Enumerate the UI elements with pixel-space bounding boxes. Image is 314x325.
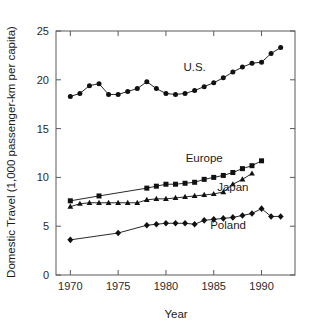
data-point-square bbox=[173, 182, 178, 187]
x-axis-title: Year bbox=[164, 308, 187, 320]
data-point-circle bbox=[221, 75, 226, 80]
x-tick-label: 1990 bbox=[249, 280, 273, 292]
x-tick-label: 1975 bbox=[106, 280, 130, 292]
travel-line-chart: 0510152025 19701975198019851990 U.S.Euro… bbox=[0, 0, 314, 325]
data-point-circle bbox=[116, 92, 121, 97]
data-point-square bbox=[97, 193, 102, 198]
data-point-circle bbox=[163, 91, 168, 96]
data-point-square bbox=[249, 163, 254, 168]
data-point-diamond bbox=[249, 210, 255, 217]
data-point-diamond bbox=[67, 237, 73, 244]
data-point-square bbox=[183, 181, 188, 186]
data-point-triangle bbox=[87, 200, 93, 205]
y-tick-label: 10 bbox=[37, 171, 49, 183]
data-point-square bbox=[144, 186, 149, 191]
x-axis-ticks: 19701975198019851990 bbox=[58, 31, 274, 292]
data-point-diamond bbox=[115, 230, 121, 237]
data-point-square bbox=[221, 173, 226, 178]
series-us bbox=[68, 45, 283, 99]
x-tick-label: 1970 bbox=[58, 280, 82, 292]
data-point-diamond bbox=[239, 212, 245, 219]
data-point-diamond bbox=[278, 213, 284, 220]
data-point-circle bbox=[278, 45, 283, 50]
series-polyline bbox=[70, 48, 280, 97]
data-point-circle bbox=[269, 51, 274, 56]
series-label-us: U.S. bbox=[183, 61, 205, 73]
data-point-circle bbox=[183, 91, 188, 96]
y-tick-label: 15 bbox=[37, 123, 49, 135]
data-point-square bbox=[230, 170, 235, 175]
series-label-europe: Europe bbox=[186, 152, 223, 164]
data-point-triangle bbox=[249, 170, 255, 175]
data-point-square bbox=[211, 175, 216, 180]
data-point-diamond bbox=[163, 220, 169, 227]
y-axis-ticks: 0510152025 bbox=[37, 25, 295, 281]
data-point-diamond bbox=[153, 221, 159, 228]
data-point-square bbox=[259, 158, 264, 163]
data-point-triangle bbox=[106, 200, 112, 205]
data-point-triangle bbox=[153, 196, 159, 201]
series-layer bbox=[67, 45, 283, 243]
data-point-circle bbox=[202, 84, 207, 89]
series-poland bbox=[67, 205, 283, 243]
data-point-diamond bbox=[182, 220, 188, 227]
data-point-square bbox=[154, 184, 159, 189]
data-point-circle bbox=[125, 89, 130, 94]
series-annotations: U.S.EuropeJapanPoland bbox=[183, 61, 248, 231]
data-point-circle bbox=[68, 94, 73, 99]
data-point-circle bbox=[97, 81, 102, 86]
data-point-circle bbox=[77, 91, 82, 96]
data-point-circle bbox=[144, 79, 149, 84]
data-point-circle bbox=[259, 60, 264, 65]
y-tick-label: 25 bbox=[37, 25, 49, 37]
data-point-triangle bbox=[115, 200, 121, 205]
data-point-circle bbox=[135, 86, 140, 91]
series-label-japan: Japan bbox=[217, 181, 248, 193]
y-tick-label: 5 bbox=[43, 220, 49, 232]
data-point-circle bbox=[240, 65, 245, 70]
y-axis-title: Domestic Travel (1,000 passenger-km per … bbox=[5, 26, 17, 278]
data-point-circle bbox=[192, 88, 197, 93]
data-point-square bbox=[68, 198, 73, 203]
x-tick-label: 1980 bbox=[154, 280, 178, 292]
data-point-circle bbox=[154, 86, 159, 91]
plot-frame bbox=[56, 31, 295, 275]
x-tick-label: 1985 bbox=[201, 280, 225, 292]
data-point-circle bbox=[211, 80, 216, 85]
data-point-circle bbox=[106, 92, 111, 97]
chart-figure: 0510152025 19701975198019851990 U.S.Euro… bbox=[0, 0, 314, 325]
data-point-triangle bbox=[96, 200, 102, 205]
data-point-circle bbox=[87, 83, 92, 88]
y-tick-label: 20 bbox=[37, 74, 49, 86]
data-point-triangle bbox=[125, 200, 131, 205]
data-point-diamond bbox=[201, 217, 207, 224]
data-point-square bbox=[192, 180, 197, 185]
data-point-circle bbox=[249, 61, 254, 66]
data-point-diamond bbox=[192, 221, 198, 228]
data-point-square bbox=[163, 182, 168, 187]
data-point-diamond bbox=[259, 205, 265, 212]
data-point-circle bbox=[173, 92, 178, 97]
data-point-diamond bbox=[173, 220, 179, 227]
data-point-diamond bbox=[144, 222, 150, 229]
data-point-square bbox=[202, 177, 207, 182]
data-point-circle bbox=[230, 69, 235, 74]
data-point-square bbox=[240, 166, 245, 171]
plot-area-border bbox=[56, 31, 295, 275]
y-tick-label: 0 bbox=[43, 269, 49, 281]
data-point-diamond bbox=[268, 213, 274, 220]
series-label-poland: Poland bbox=[210, 219, 246, 231]
